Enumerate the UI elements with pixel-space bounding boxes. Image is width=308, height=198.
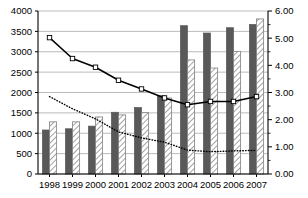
x-axis-tick-label: 2003 (154, 179, 175, 190)
y-axis-left-tick-label: 4000 (11, 5, 32, 16)
bar-hatched (211, 68, 218, 174)
series-marker-line-solid (70, 56, 74, 60)
x-axis-tick-label: 2006 (223, 179, 244, 190)
x-axis-tick-label: 2000 (85, 179, 106, 190)
bar-solid-dark (180, 26, 187, 174)
dual-axis-bar-line-chart: 05001000150020002500300035004000 0.001.0… (0, 0, 308, 198)
series-line-line-solid (50, 38, 257, 105)
y-axis-left-tick-label: 2000 (11, 87, 32, 98)
y-axis-left-tick-label: 3000 (11, 46, 32, 57)
bar-solid-dark (157, 96, 164, 174)
x-axis-labels: 1998199920002001200220032004200520062007 (39, 179, 267, 190)
series-marker-line-solid (116, 78, 120, 82)
bar-hatched (142, 113, 149, 174)
bar-hatched (73, 122, 80, 174)
series-marker-line-solid (254, 94, 258, 98)
x-axis-tick-label: 2002 (131, 179, 152, 190)
series-marker-line-solid (162, 96, 166, 100)
bar-hatched (188, 60, 195, 174)
y-axis-left-tick-label: 1500 (11, 107, 32, 118)
y-axis-right-tick-label: 2.00 (275, 114, 294, 125)
y-axis-left-labels: 05001000150020002500300035004000 (11, 5, 32, 179)
y-axis-left-tick-label: 500 (16, 148, 32, 159)
y-axis-right-tick-label: 3.00 (275, 87, 294, 98)
bar-hatched (119, 115, 126, 174)
x-axis-tick-label: 1998 (39, 179, 60, 190)
bar-hatched (165, 98, 172, 174)
series-marker-line-solid (139, 87, 143, 91)
bar-hatched (50, 122, 57, 174)
y-axis-right-labels: 0.001.002.003.004.005.006.00 (275, 5, 294, 179)
bar-solid-dark (42, 130, 49, 174)
y-axis-right-tick-label: 4.00 (275, 60, 294, 71)
y-axis-right-tick-label: 0.00 (275, 168, 294, 179)
bar-solid-dark (65, 129, 72, 174)
series-marker-line-solid (47, 35, 51, 39)
x-axis-tick-label: 1999 (62, 179, 83, 190)
bar-solid-dark (88, 126, 95, 174)
chart-container: 05001000150020002500300035004000 0.001.0… (0, 0, 308, 198)
x-axis-tick-label: 2007 (246, 179, 267, 190)
y-axis-left-tick-label: 0 (27, 168, 32, 179)
bar-solid-dark (111, 112, 118, 174)
x-axis-tick-label: 2005 (200, 179, 221, 190)
bar-hatched (234, 51, 241, 174)
y-axis-right-tick-label: 6.00 (275, 5, 294, 16)
y-axis-left-tick-label: 2500 (11, 67, 32, 78)
bar-solid-dark (134, 108, 141, 174)
series-marker-line-solid (93, 65, 97, 69)
series-marker-line-solid (185, 103, 189, 107)
y-axis-left-tick-label: 1000 (11, 128, 32, 139)
series-marker-line-solid (231, 99, 235, 103)
y-axis-left-tick-label: 3500 (11, 26, 32, 37)
y-axis-right-tick-label: 1.00 (275, 141, 294, 152)
bar-series-layer (42, 19, 263, 174)
bar-hatched (96, 117, 103, 174)
x-axis-tick-label: 2004 (177, 179, 198, 190)
series-line-line-dotted (50, 97, 257, 152)
x-axis-tick-label: 2001 (108, 179, 129, 190)
series-marker-line-solid (208, 99, 212, 103)
y-axis-right-tick-label: 5.00 (275, 33, 294, 44)
